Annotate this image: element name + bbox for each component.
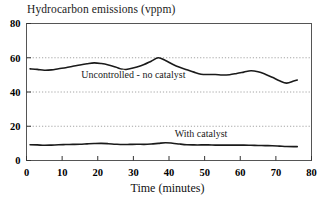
x-tick-label: 50	[199, 167, 210, 178]
x-tick-label: 30	[128, 167, 139, 178]
series-label: With catalyst	[175, 128, 228, 139]
x-tick-label: 20	[93, 167, 104, 178]
x-axis-ticks	[27, 156, 312, 161]
x-axis-title: Time (minutes)	[0, 181, 335, 196]
y-axis-ticks	[27, 24, 32, 161]
x-tick-label: 70	[271, 167, 282, 178]
x-tick-label: 80	[306, 167, 317, 178]
x-tick-label: 60	[235, 167, 246, 178]
y-tick-label: 80	[10, 18, 21, 29]
gridlines-group	[27, 58, 312, 127]
y-tick-label: 60	[10, 53, 21, 64]
x-tick-label: 10	[57, 167, 68, 178]
series-annotations-group: Uncontrolled - no catalystUncontrolled -…	[81, 69, 227, 139]
series-line	[30, 143, 297, 147]
x-tick-label: 40	[164, 167, 175, 178]
x-tick-label: 0	[24, 167, 29, 178]
y-tick-label: 20	[10, 121, 21, 132]
series-label: Uncontrolled - no catalyst	[81, 69, 185, 80]
y-tick-label: 40	[10, 87, 21, 98]
y-axis-tick-labels: 020406080	[10, 18, 21, 166]
line-chart-plot: 01020304050607080 020406080 Uncontrolled…	[0, 0, 335, 205]
x-axis-tick-labels: 01020304050607080	[24, 167, 317, 178]
chart-page: Hydrocarbon emissions (vppm) 01020304050…	[0, 0, 335, 205]
y-tick-label: 0	[15, 155, 20, 166]
